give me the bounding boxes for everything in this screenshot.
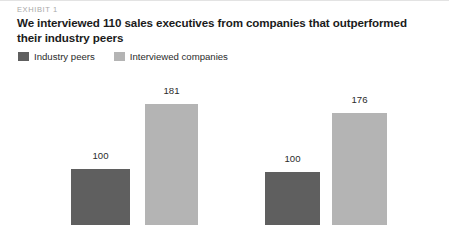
bar-group: 100181 xyxy=(63,72,206,225)
legend-item-industry-peers: Industry peers xyxy=(18,51,95,62)
exhibit-chart-card: EXHIBIT 1 We interviewed 110 sales execu… xyxy=(0,0,449,225)
top-divider xyxy=(0,0,449,1)
bar xyxy=(145,104,198,225)
bar xyxy=(71,169,130,225)
legend-label-interviewed-companies: Interviewed companies xyxy=(130,51,228,62)
bar-column: 100 xyxy=(71,72,130,225)
bar-chart-plot-area: 100181100176 xyxy=(0,72,449,225)
bar-value-label: 176 xyxy=(351,94,367,105)
legend-swatch-icon-interviewed-companies xyxy=(114,52,125,61)
bar-group: 100176 xyxy=(257,72,397,225)
bar-value-label: 100 xyxy=(92,150,108,161)
chart-legend: Industry peers Interviewed companies xyxy=(18,49,247,63)
bar-column: 181 xyxy=(145,72,198,225)
bar-value-label: 181 xyxy=(163,85,179,96)
page-title: We interviewed 110 sales executives from… xyxy=(17,16,433,45)
legend-item-interviewed-companies: Interviewed companies xyxy=(114,51,228,62)
legend-label-industry-peers: Industry peers xyxy=(34,51,95,62)
bar-column: 100 xyxy=(265,72,320,225)
legend-swatch-icon-industry-peers xyxy=(18,52,29,61)
bar-value-label: 100 xyxy=(284,153,300,164)
exhibit-kicker: EXHIBIT 1 xyxy=(17,5,58,14)
bar-column: 176 xyxy=(332,72,387,225)
bar xyxy=(265,172,320,225)
bar xyxy=(332,113,387,225)
